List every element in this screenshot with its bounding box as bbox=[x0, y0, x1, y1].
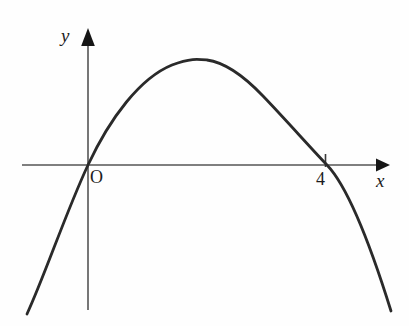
x-axis-label: x bbox=[376, 171, 384, 190]
x-intercept-label: 4 bbox=[316, 170, 325, 188]
coordinate-plane-plot bbox=[0, 0, 409, 326]
y-axis-label: y bbox=[61, 26, 69, 45]
plot-background bbox=[0, 0, 409, 326]
origin-label: O bbox=[90, 168, 103, 186]
parabola-figure: y x O 4 bbox=[0, 0, 409, 326]
